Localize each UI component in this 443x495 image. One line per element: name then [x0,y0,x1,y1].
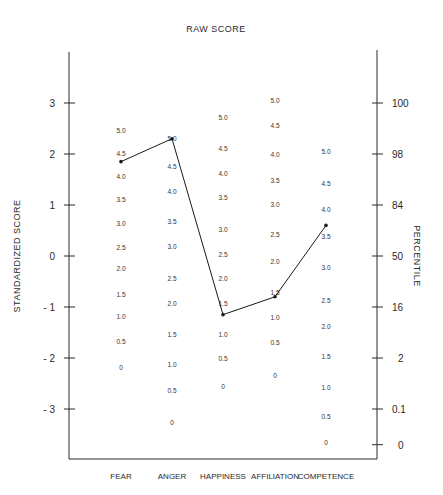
raw-score-label: 3.0 [270,201,279,208]
raw-score-label: 3.5 [167,218,176,225]
raw-score-label: 4.0 [218,170,227,177]
profile-chart: RAW SCORE STANDARDIZED SCOREPERCENTILE 3… [0,0,443,495]
percentile-tick-label: 84 [392,200,404,211]
percentile-tick-label: 98 [392,149,404,160]
category-label: HAPPINESS [200,472,246,481]
data-point [170,137,174,141]
y-tick-label: 0 [49,251,55,262]
percentile-tick-label: 16 [392,302,404,313]
raw-score-label: 0 [119,364,123,371]
raw-score-label: 2.5 [321,297,330,304]
category-label: COMPETENCE [298,472,354,481]
raw-score-label: 2.5 [218,251,227,258]
raw-score-label: 2.0 [270,258,279,265]
raw-score-label: 0.5 [116,338,125,345]
raw-score-label: 4.5 [270,122,279,129]
raw-score-label: 1.0 [218,331,227,338]
percentile-tick-label: 0 [398,440,404,451]
raw-score-label: 1.0 [116,313,125,320]
raw-score-label: 2.5 [116,244,125,251]
raw-score-label: 4.5 [116,150,125,157]
raw-score-label: 4.0 [270,151,279,158]
raw-score-label: 0.5 [270,339,279,346]
raw-score-label: 0 [170,419,174,426]
raw-score-label: 1.0 [270,314,279,321]
raw-score-label: 5.0 [116,127,125,134]
y2-axis-label: PERCENTILE [412,225,422,287]
raw-score-label: 0.5 [321,413,330,420]
raw-score-label: 5.0 [218,114,227,121]
percentile-tick-label: 50 [392,251,404,262]
data-point [221,313,225,317]
raw-score-label: 3.0 [116,220,125,227]
raw-score-label: 4.5 [218,145,227,152]
raw-score-label: 2.0 [167,300,176,307]
raw-score-label: 3.5 [218,194,227,201]
raw-score-label: 3.5 [321,233,330,240]
raw-score-label: 3.0 [167,243,176,250]
category-label: FEAR [110,472,132,481]
raw-score-label: 4.0 [116,173,125,180]
raw-score-label: 4.5 [321,180,330,187]
percentile-tick-label: 2 [398,353,404,364]
raw-score-label: 2.5 [270,231,279,238]
raw-score-label: 2.5 [167,275,176,282]
y-tick-label: 2 [49,149,55,160]
raw-score-label: 4.0 [167,188,176,195]
raw-score-label: 1.5 [321,353,330,360]
data-point [273,295,277,299]
raw-score-label: 0 [221,383,225,390]
raw-score-label: 3.0 [321,264,330,271]
category-label: ANGER [158,472,187,481]
raw-score-label: 5.0 [270,97,279,104]
raw-score-label: 2.0 [321,323,330,330]
raw-score-label: 4.0 [321,206,330,213]
raw-score-label: 2.0 [116,265,125,272]
raw-score-label: 0 [324,439,328,446]
data-point [324,224,328,228]
y-tick-label: - 1 [43,302,55,313]
raw-score-label: 1.5 [116,291,125,298]
y-tick-label: 3 [49,98,55,109]
raw-score-label: 1.5 [167,331,176,338]
percentile-tick-label: 0.1 [392,404,406,415]
y-tick-label: - 3 [43,404,55,415]
y-tick-label: - 2 [43,353,55,364]
chart-title: RAW SCORE [186,24,246,34]
y-axis-label: STANDARDIZED SCORE [12,200,22,313]
raw-score-label: 0.5 [218,355,227,362]
y-tick-label: 1 [49,200,55,211]
raw-score-label: 2.0 [218,275,227,282]
category-label: AFFILIATION [251,472,299,481]
raw-score-label: 0 [273,372,277,379]
raw-score-label: 3.5 [270,177,279,184]
raw-score-label: 3.0 [218,226,227,233]
raw-score-label: 1.0 [167,361,176,368]
raw-score-label: 0.5 [167,387,176,394]
raw-score-label: 5.0 [321,148,330,155]
percentile-tick-label: 100 [392,98,409,109]
raw-score-label: 3.5 [116,196,125,203]
raw-score-label: 1.0 [321,384,330,391]
data-point [119,160,123,164]
raw-score-label: 4.5 [167,163,176,170]
